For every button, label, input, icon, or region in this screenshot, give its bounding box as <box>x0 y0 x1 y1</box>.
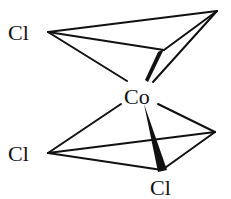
bond-cl-top-to-inner <box>48 32 164 50</box>
upper-ligand-group <box>48 11 217 82</box>
bond-cl-top-to-co <box>48 32 127 81</box>
bond-apex-to-co <box>153 11 217 82</box>
atom-label-cl-bottom: Cl <box>150 175 171 199</box>
atom-label-cl-mid: Cl <box>8 141 29 166</box>
atom-label-cl-top: Cl <box>8 20 29 45</box>
lower-ligand-group <box>48 104 215 172</box>
molecule-diagram: Cl Co Cl Cl <box>0 0 231 199</box>
wedge-bond-upper <box>145 49 164 82</box>
bond-co-to-right <box>158 104 215 132</box>
atom-label-co: Co <box>124 84 150 109</box>
bond-cl-mid-to-bottom <box>48 153 162 170</box>
